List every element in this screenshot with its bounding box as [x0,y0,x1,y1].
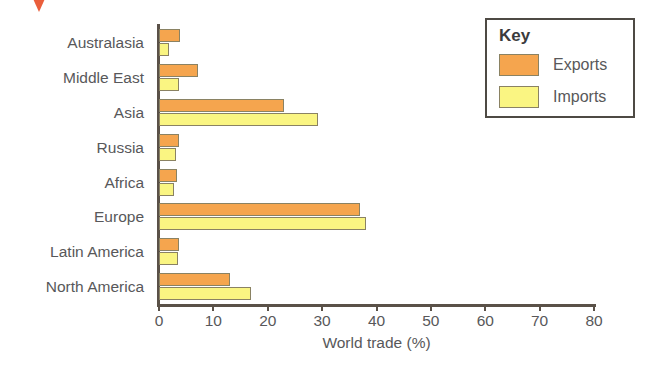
x-tick-label: 80 [585,312,602,330]
bar-exports [159,273,230,286]
x-tick-mark [212,304,214,311]
bar-imports [159,287,251,300]
bar-imports [159,148,176,161]
bar-exports [159,203,360,216]
category-label: Russia [0,131,151,166]
bar-exports [159,169,177,182]
x-tick-mark [430,304,432,311]
x-tick-label: 30 [314,312,331,330]
x-tick-mark [539,304,541,311]
x-axis-ticks: 01020304050607080 [0,304,659,334]
bar-exports [159,238,179,251]
x-tick-mark [593,304,595,311]
category-label: Middle East [0,61,151,96]
bar-exports [159,64,198,77]
legend-swatch-imports [499,86,539,108]
x-tick-mark [158,304,160,311]
horizontal-bar-chart: AustralasiaMiddle EastAsiaRussiaAfricaEu… [0,0,659,367]
x-tick-label: 40 [368,312,385,330]
x-tick-mark [321,304,323,311]
category-label: Latin America [0,235,151,270]
x-tick-label: 60 [477,312,494,330]
x-tick-mark [376,304,378,311]
bar-exports [159,29,180,42]
bar-group [159,200,594,235]
category-label: Africa [0,166,151,201]
bar-imports [159,78,179,91]
bar-imports [159,113,318,126]
x-tick-mark [484,304,486,311]
bar-imports [159,183,174,196]
x-tick-label: 0 [155,312,164,330]
x-axis-title: World trade (%) [159,334,594,352]
legend-key-box: Key Exports Imports [485,18,635,118]
legend-label-exports: Exports [553,54,607,76]
category-label: Australasia [0,26,151,61]
bar-group [159,270,594,305]
category-label: Asia [0,96,151,131]
bar-imports [159,217,366,230]
legend-label-imports: Imports [553,86,606,108]
bar-exports [159,134,179,147]
category-label: North America [0,270,151,305]
bar-exports [159,99,284,112]
x-tick-label: 70 [531,312,548,330]
x-tick-mark [267,304,269,311]
bar-group [159,166,594,201]
bar-imports [159,252,178,265]
y-axis-category-labels: AustralasiaMiddle EastAsiaRussiaAfricaEu… [0,26,151,305]
category-label: Europe [0,200,151,235]
x-tick-label: 50 [422,312,439,330]
legend-title: Key [499,26,530,46]
bar-group [159,131,594,166]
legend-swatch-exports [499,54,539,76]
x-tick-label: 20 [259,312,276,330]
bar-imports [159,43,169,56]
bar-group [159,235,594,270]
x-tick-label: 10 [205,312,222,330]
